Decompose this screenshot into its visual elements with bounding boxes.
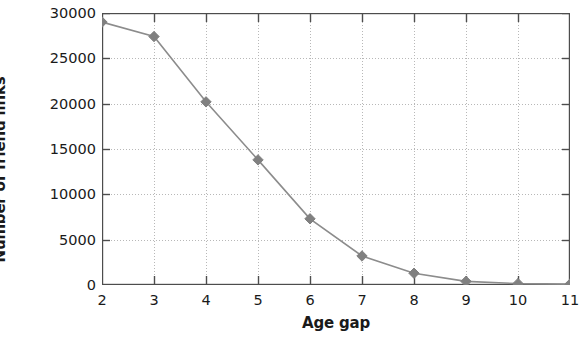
- x-axis-tick-label: 5: [238, 292, 278, 308]
- x-axis-title: Age gap: [102, 314, 570, 332]
- data-point-marker: [102, 17, 107, 27]
- x-axis-tick-label: 9: [446, 292, 486, 308]
- x-axis-tick-labels: 234567891011: [0, 289, 582, 315]
- x-axis-tick-label: 6: [290, 292, 330, 308]
- y-axis-tick-label: 15000: [34, 142, 96, 156]
- data-point-marker: [409, 268, 419, 278]
- x-axis-tick-label: 3: [134, 292, 174, 308]
- horizontal-gridlines: [102, 59, 570, 241]
- data-series-line: [102, 22, 570, 284]
- y-axis-tick-label: 25000: [34, 51, 96, 65]
- chart-figure: Number of friend links 05000100001500020…: [0, 0, 582, 339]
- data-point-marker: [565, 279, 570, 285]
- x-axis-ticks-top: [155, 13, 519, 22]
- data-series-markers: [102, 17, 570, 285]
- x-axis-tick-label: 2: [82, 292, 122, 308]
- y-axis-ticks-right: [562, 14, 570, 241]
- line-chart-svg: [102, 13, 570, 285]
- data-point-marker: [461, 276, 471, 285]
- y-axis-tick-label: 20000: [34, 97, 96, 111]
- y-axis-tick-label: 10000: [34, 187, 96, 201]
- y-axis-tick-label: 30000: [34, 6, 96, 20]
- x-axis-tick-label: 4: [186, 292, 226, 308]
- x-axis-tick-label: 10: [498, 292, 538, 308]
- x-axis-tick-label: 11: [550, 292, 582, 308]
- x-axis-tick-label: 7: [342, 292, 382, 308]
- plot-area: [102, 13, 570, 285]
- y-axis-tick-label: 5000: [34, 233, 96, 247]
- x-axis-tick-label: 8: [394, 292, 434, 308]
- data-point-marker: [513, 278, 523, 285]
- data-point-marker: [357, 251, 367, 261]
